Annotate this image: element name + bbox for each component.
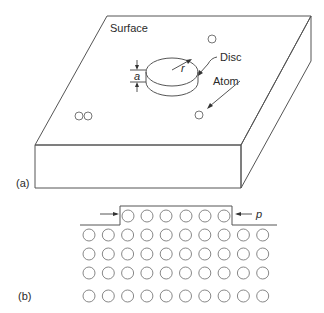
disc-label: Disc [220,51,242,63]
slab [35,16,311,188]
atom [160,290,172,302]
panel-b: p (b) [18,206,277,302]
atom [257,248,269,260]
atom [218,248,230,260]
atom [237,229,249,241]
arrow-up-icon [135,82,139,87]
atom [141,229,153,241]
atom [180,210,192,222]
panel-a: Surface r a Disc Atom [16,16,311,189]
step-outline [80,206,277,225]
atom [180,267,192,279]
atom [199,290,211,302]
arrow-left-icon [235,212,241,216]
atom [237,248,249,260]
radius-symbol: r [181,62,186,74]
atom [102,267,114,279]
disc-leader [200,57,217,73]
atom [122,229,134,241]
figure-canvas: Surface r a Disc Atom [0,0,324,313]
atom [160,210,172,222]
atom [160,267,172,279]
atom [83,248,95,260]
atom [102,248,114,260]
atom [218,267,230,279]
atom [257,267,269,279]
slab-side-face [241,16,311,188]
panel-a-label: (a) [16,177,29,189]
step-symbol: p [255,208,262,220]
disc-side [146,72,198,96]
disc-top [146,58,198,86]
atom [122,210,134,222]
slab-top-face [35,16,311,145]
atom [257,229,269,241]
disc: r [146,58,198,96]
atom [75,112,83,120]
slab-front-face [35,145,241,188]
atom [83,267,95,279]
atom [83,290,95,302]
atom [102,229,114,241]
step-atoms [122,210,230,222]
figure-svg: Surface r a Disc Atom [0,0,324,313]
atom [257,290,269,302]
surface-label: Surface [110,22,148,34]
atom [208,35,216,43]
atom [180,248,192,260]
arrow-right-icon [113,212,119,216]
atom [160,229,172,241]
atom [83,229,95,241]
atom [141,290,153,302]
atom [102,290,114,302]
radius-arrowhead-icon [186,59,192,64]
atom [218,290,230,302]
atom [84,112,92,120]
atom [160,248,172,260]
atom [122,248,134,260]
atom [199,210,211,222]
panel-b-label: (b) [18,290,31,302]
atom [141,248,153,260]
atom [199,267,211,279]
atom [122,267,134,279]
atom [199,248,211,260]
atom [195,111,203,119]
thickness-dimension: a [130,60,146,92]
atom [237,290,249,302]
atom [218,210,230,222]
atom [180,229,192,241]
atom [199,229,211,241]
atom [237,267,249,279]
height-symbol: a [134,70,140,82]
atom [218,229,230,241]
atom [141,210,153,222]
atom [122,290,134,302]
atom [180,290,192,302]
atom [141,267,153,279]
lattice-atoms [83,229,269,302]
